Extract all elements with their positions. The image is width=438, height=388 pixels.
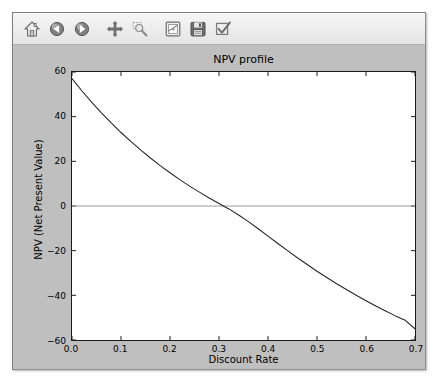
x-tick-label: 0.7 <box>409 344 423 354</box>
back-arrow-icon[interactable] <box>45 17 69 41</box>
save-disk-icon[interactable] <box>186 17 210 41</box>
plot-axes <box>71 71 416 341</box>
navigation-toolbar <box>13 13 425 45</box>
x-tick-label: 0.6 <box>360 344 374 354</box>
subplot-config-icon[interactable] <box>161 17 185 41</box>
edit-check-icon[interactable] <box>211 17 235 41</box>
plot-window: NPV profile NPV (Net Present Value) Disc… <box>12 12 426 370</box>
x-tick-label: 0.1 <box>113 344 127 354</box>
x-tick-label: 0.2 <box>162 344 176 354</box>
x-tick-label: 0.3 <box>212 344 226 354</box>
chart-title: NPV profile <box>71 53 416 67</box>
screenshot-root: NPV profile NPV (Net Present Value) Disc… <box>0 0 438 388</box>
y-axis-label: NPV (Net Present Value) <box>33 115 44 285</box>
x-axis-label: Discount Rate <box>71 354 416 365</box>
toolbar-separator-1 <box>95 17 102 41</box>
home-icon[interactable] <box>20 17 44 41</box>
x-tick-label: 0.0 <box>64 344 78 354</box>
x-tick-label: 0.5 <box>310 344 324 354</box>
npv-curve-plot <box>72 72 415 340</box>
forward-arrow-icon[interactable] <box>70 17 94 41</box>
x-tick-label: 0.4 <box>261 344 275 354</box>
toolbar-separator-2 <box>153 17 160 41</box>
pan-move-icon[interactable] <box>103 17 127 41</box>
npv-curve-line <box>72 79 415 329</box>
figure-canvas: NPV profile NPV (Net Present Value) Disc… <box>13 45 425 370</box>
zoom-rect-icon[interactable] <box>128 17 152 41</box>
